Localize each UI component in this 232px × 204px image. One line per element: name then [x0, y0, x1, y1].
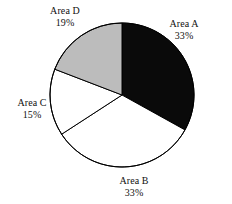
pie-label-area-a: Area A 33% [169, 18, 198, 41]
pie-slice-group [50, 23, 194, 167]
pie-label-area-d: Area D 19% [50, 5, 80, 28]
pie-label-area-b-percent: 33% [119, 187, 148, 199]
pie-label-area-d-name: Area D [50, 5, 80, 17]
pie-label-area-a-percent: 33% [169, 30, 198, 42]
pie-label-area-a-name: Area A [169, 18, 198, 30]
pie-label-area-d-percent: 19% [50, 17, 80, 29]
pie-label-area-b-name: Area B [119, 175, 148, 187]
pie-label-area-c: Area C 15% [17, 97, 46, 120]
pie-label-area-c-name: Area C [17, 97, 46, 109]
pie-chart-figure: Area A 33% Area B 33% Area C 15% Area D … [0, 0, 232, 204]
pie-label-area-b: Area B 33% [119, 175, 148, 198]
pie-label-area-c-percent: 15% [17, 109, 46, 121]
